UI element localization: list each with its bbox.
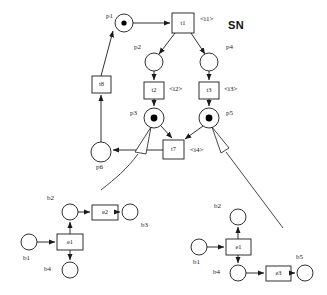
place-label-p2: p2 [134,44,141,51]
petri-net-diagram: SN p1 p2 p4 p3 p5 p6 t1 t2 t3 t7 t8 <i1>… [0,0,327,295]
subnet-left-place-label-b2: b2 [47,195,54,202]
net-title: SN [228,20,244,31]
arc-p3-t7 [161,126,172,138]
place-p4 [200,53,218,71]
token-p1 [121,20,126,25]
place-p6 [91,142,111,162]
transition-label-t8: t8 [92,81,111,88]
place-b5-right [297,265,313,281]
arc-p5-t7 [185,126,203,139]
interface-label-i2: <i2> [169,86,182,93]
place-p2 [145,53,163,71]
subnet-left-place-label-b3: b3 [141,222,148,229]
interface-label-i4: <i4> [190,147,203,154]
place-b2-left [62,204,78,220]
subnet-right-place-label-b1: b1 [193,259,200,266]
interface-label-i1: <i1> [200,16,213,23]
interface-label-i3: <i3> [224,86,237,93]
subnet-right-place-label-b4: b4 [213,269,220,276]
subnet-left-transition-label-e2: e2 [92,209,118,216]
place-b3-left [122,204,138,220]
place-label-p5: p5 [226,110,233,117]
token-p3 [151,115,158,122]
subnet-right-place-label-b5: b5 [296,254,303,261]
subnet-left-place-label-b4: b4 [44,266,51,273]
place-b4-right [230,265,246,281]
transition-label-t3: t3 [199,87,219,94]
subnet-left-transition-label-e1: e1 [57,239,83,246]
subnet-left-place-label-b1: b1 [23,255,30,262]
place-label-p6: p6 [96,164,103,171]
transition-label-t7: t7 [163,146,184,153]
place-label-p1: p1 [106,13,113,20]
arc-t1-p4 [191,33,205,54]
place-b2-right [230,209,246,225]
arc-t8-p1 [101,31,113,76]
subnet-right-transition-label-e1: e1 [226,244,251,251]
transition-label-t2: t2 [144,87,164,94]
place-b1-left [21,234,37,250]
place-b4-left [62,262,78,278]
place-label-p3: p3 [130,110,137,117]
transition-label-t1: t1 [172,20,194,27]
arc-t1-p2 [159,33,175,54]
subnet-right-place-label-b2: b2 [214,203,221,210]
subnet-right-transition-label-e3: e3 [266,270,291,277]
place-label-p4: p4 [226,44,233,51]
token-p5 [206,115,213,122]
refinement-wedge-p5 [212,127,229,153]
place-b1-right [191,239,207,255]
